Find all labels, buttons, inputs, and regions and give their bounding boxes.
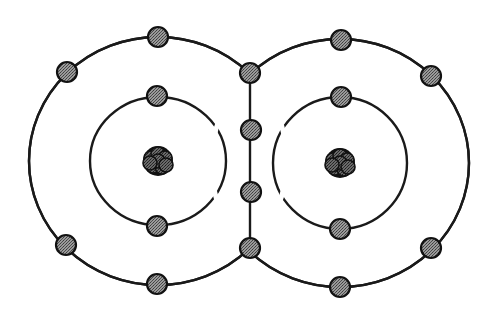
outer-electron [56,235,76,255]
outer-electron [421,238,441,258]
outer-electron [421,66,441,86]
left-atom-nucleus-icon [143,146,173,176]
outer-electron [57,62,77,82]
outer-electron [148,27,168,47]
inner-electron [147,216,167,236]
inner-electron [331,87,351,107]
outer-electron [147,274,167,294]
inner-electron [147,86,167,106]
right-atom-nucleus-icon [325,148,355,178]
shared-electron [241,182,261,202]
covalent-bond-diagram [0,0,495,318]
shared-electron [240,238,260,258]
shared-electron [241,120,261,140]
inner-electron [330,219,350,239]
outer-electron [330,277,350,297]
electrons [56,27,441,297]
outer-electron [331,30,351,50]
shared-electron [240,63,260,83]
